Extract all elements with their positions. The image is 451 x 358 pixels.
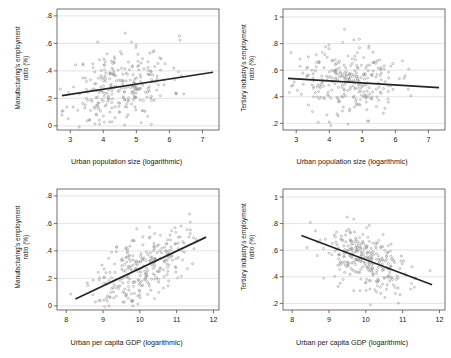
- x-tick-label: 5: [360, 135, 364, 144]
- x-tick-label: 3: [294, 135, 298, 144]
- y-tick-label: .4: [46, 246, 52, 255]
- plot-frame: [283, 9, 445, 130]
- y-tick-label: .6: [272, 246, 278, 255]
- x-tick-label: 12: [435, 315, 443, 324]
- y-tick-label: .2: [46, 274, 52, 283]
- scatter-points: [288, 28, 412, 126]
- x-tick-label: 5: [134, 135, 138, 144]
- x-tick-label: 7: [200, 135, 204, 144]
- x-axis-label: Urban per capita GDP (logarithmic): [34, 338, 219, 347]
- y-axis-label: Tertiary industry's employment ratio (%): [240, 3, 264, 133]
- x-tick-label: 12: [209, 315, 217, 324]
- y-tick-label: 0: [48, 121, 52, 130]
- x-tick-label: 9: [101, 315, 105, 324]
- x-tick-label: 11: [398, 315, 405, 324]
- panel-bottom-left: 0.2.4.6.889101112 Manufacturing's employ…: [0, 179, 225, 358]
- y-tick-label: 0: [48, 301, 52, 310]
- y-tick-label: .8: [272, 39, 278, 48]
- scatter-figure: 0.2.4.6.834567 Manufacturing's employmen…: [0, 0, 451, 358]
- x-tick-label: 11: [173, 315, 180, 324]
- x-tick-label: 6: [167, 135, 171, 144]
- x-tick-label: 4: [327, 135, 331, 144]
- panel-top-right: .2.4.6.8134567 Tertiary industry's emplo…: [226, 0, 451, 179]
- y-tick-label: .2: [272, 119, 278, 128]
- scatter-points: [70, 213, 198, 308]
- y-tick-label: .6: [46, 219, 52, 228]
- x-axis-label: Urban population size (logarithmic): [260, 157, 445, 166]
- x-tick-label: 9: [327, 315, 331, 324]
- fit-line: [301, 236, 432, 285]
- x-tick-label: 7: [426, 135, 430, 144]
- fit-line: [62, 72, 213, 95]
- y-tick-label: .6: [272, 66, 278, 75]
- x-tick-label: 8: [290, 315, 294, 324]
- x-tick-label: 4: [101, 135, 105, 144]
- panel-bottom-right: .2.4.6.8189101112 Tertiary industry's em…: [226, 179, 451, 358]
- y-tick-label: .4: [272, 272, 278, 281]
- panel-top-left: 0.2.4.6.834567 Manufacturing's employmen…: [0, 0, 225, 179]
- y-axis-label: Manufacturing's employment ratio (%): [14, 182, 38, 312]
- y-tick-label: .6: [46, 39, 52, 48]
- y-axis-label: Manufacturing's employment ratio (%): [14, 3, 38, 133]
- y-axis-label: Tertiary industry's employment ratio (%): [240, 182, 264, 312]
- y-tick-label: .8: [46, 11, 52, 20]
- y-tick-label: .4: [272, 92, 278, 101]
- x-axis-label: Urban population size (logarithmic): [34, 157, 219, 166]
- y-tick-label: .2: [272, 299, 278, 308]
- x-axis-label: Urban per capita GDP (logarithmic): [260, 338, 445, 347]
- x-tick-label: 6: [393, 135, 397, 144]
- x-tick-label: 10: [361, 315, 369, 324]
- x-tick-label: 3: [68, 135, 72, 144]
- plot-frame: [283, 189, 445, 310]
- y-tick-label: 1: [274, 193, 278, 202]
- y-tick-label: .8: [46, 191, 52, 200]
- x-tick-label: 8: [64, 315, 68, 324]
- y-tick-label: .4: [46, 66, 52, 75]
- y-tick-label: .2: [46, 94, 52, 103]
- y-tick-label: 1: [274, 13, 278, 22]
- x-tick-label: 10: [136, 315, 144, 324]
- y-tick-label: .8: [272, 219, 278, 228]
